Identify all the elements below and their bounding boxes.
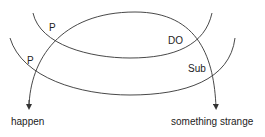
- dome-arc-with-arrows: [29, 12, 216, 107]
- upper-ellipse-arc: [33, 13, 212, 58]
- dependency-arc-diagram: P DO P Sub happen something strange: [0, 0, 265, 137]
- label-p-upper: P: [49, 23, 56, 33]
- label-happen: happen: [11, 117, 44, 127]
- label-p-lower: P: [27, 56, 34, 66]
- label-sub: Sub: [188, 64, 206, 74]
- label-something-strange: something strange: [171, 117, 253, 127]
- label-do: DO: [168, 36, 183, 46]
